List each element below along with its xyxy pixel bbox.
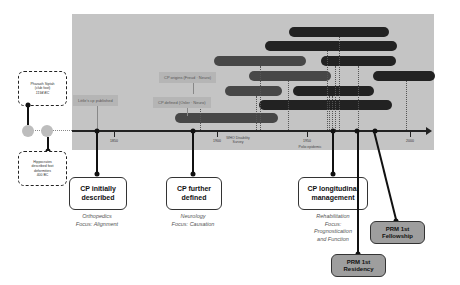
axis-tick bbox=[307, 131, 308, 137]
prm-first-fellowship: PRM 1st Fellowship bbox=[370, 221, 425, 244]
prm-title-line: Residency bbox=[343, 266, 373, 273]
milestone-title-line: described bbox=[81, 194, 114, 203]
connector bbox=[96, 131, 98, 175]
focus-line: Orthopedics bbox=[76, 213, 118, 221]
prm-title-line: PRM 1st bbox=[347, 259, 371, 266]
tick-label-1900: 1900 bbox=[213, 139, 221, 143]
focus-line: and Function bbox=[314, 236, 352, 244]
label-littles: Little's cp published bbox=[73, 95, 118, 106]
drop-line bbox=[187, 108, 188, 116]
drop-line bbox=[193, 82, 194, 94]
drop-line bbox=[358, 66, 359, 130]
connector bbox=[357, 131, 359, 255]
ancient-marker bbox=[22, 125, 34, 137]
milestone-cp-further-defined: CP further defined bbox=[166, 177, 222, 210]
event-line: 1194 BC bbox=[36, 91, 49, 96]
event-hippocrates: Hippocrates described foot deformities 4… bbox=[18, 151, 67, 186]
focus-line: Focus: Alignment bbox=[76, 221, 118, 229]
label-cp-origins: CP origins (Freud · Neuro) bbox=[159, 72, 216, 83]
axis-tick bbox=[410, 131, 411, 137]
annotation-who-survey: WHO Disability Survey bbox=[226, 136, 250, 144]
connector-dot bbox=[95, 172, 100, 177]
timeline-bar bbox=[175, 113, 278, 123]
tick-label-1850: 1850 bbox=[110, 139, 118, 143]
milestone-title-line: CP further bbox=[177, 185, 211, 194]
timeline-bar bbox=[373, 71, 435, 81]
milestone-focus: Neurology Focus: Causation bbox=[172, 213, 215, 228]
annotation-polio: Polio epidemic bbox=[299, 145, 322, 149]
axis-arrow-icon bbox=[426, 127, 432, 135]
timeline-bar bbox=[225, 86, 282, 96]
connector bbox=[27, 105, 29, 125]
drop-line bbox=[335, 66, 336, 130]
drop-line bbox=[288, 81, 289, 130]
milestone-focus: Rehabilitation Focus: Prognostication an… bbox=[314, 213, 352, 243]
milestone-cp-initially-described: CP initially described bbox=[69, 177, 127, 210]
milestone-title-line: CP longitudinal bbox=[307, 185, 358, 194]
focus-line: Rehabilitation bbox=[314, 213, 352, 221]
focus-line: Neurology bbox=[172, 213, 215, 221]
drop-line bbox=[256, 96, 257, 130]
drop-line bbox=[327, 51, 328, 130]
timeline-bar bbox=[214, 56, 306, 66]
drop-line bbox=[97, 104, 98, 130]
axis-tick bbox=[114, 131, 115, 137]
connector-dot bbox=[26, 103, 31, 108]
tick-label-2000: 2000 bbox=[406, 139, 414, 143]
prm-first-residency: PRM 1st Residency bbox=[331, 254, 386, 277]
prm-title-line: Fellowship bbox=[382, 233, 413, 240]
drop-line bbox=[406, 81, 407, 130]
drop-line bbox=[332, 96, 333, 130]
timeline-bar bbox=[259, 100, 392, 110]
drop-line bbox=[260, 66, 261, 130]
axis-tick bbox=[217, 131, 218, 137]
focus-line: Focus: Causation bbox=[172, 221, 215, 229]
focus-line: Prognostication bbox=[314, 228, 352, 236]
timeline-bar bbox=[289, 27, 389, 37]
connector bbox=[332, 131, 334, 175]
milestone-title-line: CP initially bbox=[80, 185, 116, 194]
milestone-focus: Orthopedics Focus: Alignment bbox=[76, 213, 118, 228]
drop-line bbox=[329, 96, 330, 130]
event-pharaoh: Pharaoh Siptah (club foot) 1194 BC bbox=[18, 71, 67, 106]
tick-label-1950: 1950 bbox=[303, 139, 311, 143]
focus-line: Focus: bbox=[314, 221, 352, 229]
connector-dot bbox=[191, 172, 196, 177]
milestone-title-line: management bbox=[311, 194, 354, 203]
timeline-bar bbox=[249, 71, 331, 81]
milestone-title-line: defined bbox=[182, 194, 207, 203]
ancient-marker bbox=[41, 125, 53, 137]
event-line: 400 BC bbox=[37, 173, 49, 178]
timeline-bar bbox=[265, 41, 397, 51]
prm-title-line: PRM 1st bbox=[386, 226, 410, 233]
drop-line bbox=[339, 37, 340, 130]
timeline-bar bbox=[321, 56, 396, 66]
connector-dot bbox=[331, 172, 336, 177]
connector bbox=[192, 131, 194, 175]
label-cp-defined: CP defined (Osler · Neuro) bbox=[153, 97, 211, 108]
timeline-bar bbox=[293, 86, 374, 96]
